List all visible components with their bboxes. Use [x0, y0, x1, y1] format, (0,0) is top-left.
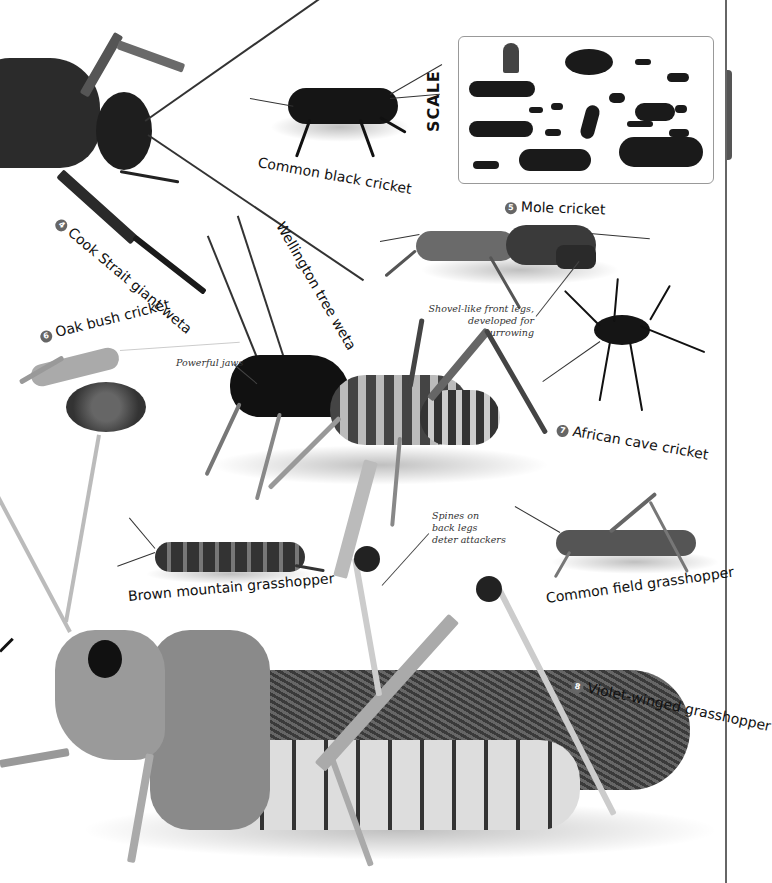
small-insect-silhouette-icon — [675, 105, 687, 113]
african-cave-cricket-image — [530, 285, 720, 415]
grasshopper-silhouette-icon — [469, 81, 535, 97]
small-insect-silhouette-icon — [669, 129, 689, 137]
common-black-cricket-image — [250, 70, 440, 160]
bush-cricket-silhouette-icon — [579, 104, 601, 140]
scale-panel — [458, 36, 714, 184]
small-insect-silhouette-icon — [551, 103, 563, 110]
annotation-tree-weta: Powerful jaws — [176, 357, 243, 369]
grasshopper-silhouette-icon — [469, 121, 533, 137]
grasshopper-silhouette-icon — [619, 137, 703, 167]
cricket-silhouette-icon — [565, 49, 613, 75]
violet-winged-grasshopper-image — [0, 440, 720, 883]
small-insect-silhouette-icon — [529, 107, 543, 113]
species-number-badge: 7 — [556, 424, 570, 438]
label-common-black-cricket: Common black cricket — [257, 154, 413, 197]
small-insect-silhouette-icon — [635, 59, 651, 65]
species-name: Common black cricket — [257, 154, 413, 197]
species-number-badge: 8 — [570, 680, 584, 694]
small-insect-silhouette-icon — [545, 129, 561, 136]
thumb-silhouette-icon — [503, 43, 519, 73]
small-insect-silhouette-icon — [667, 73, 689, 82]
small-insect-silhouette-icon — [473, 161, 499, 169]
small-insect-silhouette-icon — [627, 121, 653, 127]
annotation-violet-winged-grasshopper: Spines on back legs deter attackers — [432, 510, 506, 546]
grasshopper-silhouette-icon — [519, 149, 591, 171]
oak-bush-cricket-image — [10, 340, 170, 440]
small-insect-silhouette-icon — [609, 93, 625, 103]
weta-silhouette-icon — [635, 103, 675, 121]
page-edge-tab — [727, 70, 732, 160]
